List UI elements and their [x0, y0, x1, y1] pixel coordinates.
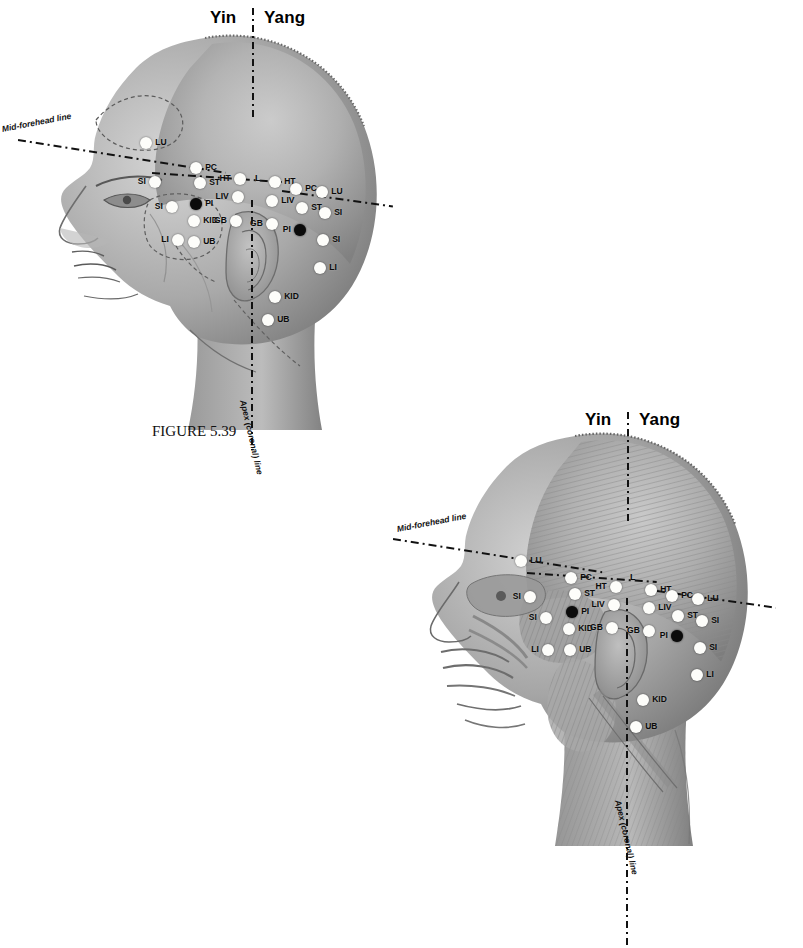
figure-bottom: Yin Yang Mid-forehead line Apex (coronal…: [375, 400, 803, 948]
center-marker-label-bottom: L: [630, 572, 636, 582]
yang-label-2: Yang: [639, 410, 680, 430]
acupoint-label-si-yin: SI: [155, 201, 163, 211]
acupoint-label-pi-yang: PI: [283, 224, 291, 234]
acupoint-label-si-yang: SI: [709, 642, 717, 652]
yang-label: Yang: [264, 8, 305, 28]
acupoint-label-liv-yin: LIV: [216, 191, 229, 201]
acupoint-label-si-yang: SI: [332, 234, 340, 244]
acupoint-label-pi-yin: PI: [581, 606, 589, 616]
acupoint-label-pi-yin: PI: [205, 198, 213, 208]
acupoint-label-pc-yin: PC: [205, 162, 217, 172]
acupoint-label-lu-yin: LU: [155, 137, 166, 147]
head-drawing-svg: [0, 0, 420, 450]
acupoint-label-si-yin: SI: [529, 612, 537, 622]
acupoint-label-liv-yin: LIV: [592, 599, 605, 609]
acupoint-label-ub-yang: UB: [277, 314, 289, 324]
figure-caption: FIGURE 5.39: [152, 423, 236, 440]
acupoint-label-gb-yang: GB: [250, 218, 263, 228]
acupoint-label-ub-yin: UB: [203, 236, 215, 246]
acupoint-label-st-yin: ST: [584, 588, 595, 598]
acupoint-label-si-yang: SI: [334, 207, 342, 217]
acupoint-label-si-yang: SI: [711, 615, 719, 625]
acupoint-label-si-yin: SI: [138, 176, 146, 186]
acupoint-label-ub-yang: UB: [645, 721, 657, 731]
acupoint-label-pi-yang: PI: [660, 630, 668, 640]
acupoint-label-ht-yin: HT: [595, 581, 606, 591]
center-marker-label-top: L: [255, 173, 261, 183]
head-illustration-surface: [0, 0, 420, 450]
acupoint-label-gb-yin: GB: [590, 622, 603, 632]
acupoint-label-pc-yin: PC: [580, 572, 592, 582]
acupoint-label-ub-yin: UB: [579, 644, 591, 654]
acupoint-label-lu-yang: LU: [331, 186, 342, 196]
acupoint-label-li-yin: LI: [531, 644, 539, 654]
acupoint-label-gb-yang: GB: [627, 625, 640, 635]
acupoint-label-kid-yang: KID: [284, 291, 299, 301]
acupoint-label-si-yin: SI: [513, 591, 521, 601]
yin-label-2: Yin: [585, 410, 611, 430]
acupoint-label-kid-yang: KID: [652, 694, 667, 704]
figure-top: Yin Yang Mid-forehead line Apex (coronal…: [0, 0, 420, 450]
acupoint-label-li-yang: LI: [706, 669, 714, 679]
acupoint-label-lu-yang: LU: [707, 593, 718, 603]
acupoint-label-lu-yin: LU: [530, 555, 541, 565]
acupoint-label-gb-yin: GB: [214, 215, 227, 225]
acupoint-label-li-yang: LI: [329, 262, 337, 272]
acupoint-label-li-yin: LI: [161, 234, 169, 244]
acupoint-label-liv-yang: LIV: [658, 602, 671, 612]
head-illustration-muscular: [375, 400, 803, 948]
yin-label: Yin: [210, 8, 236, 28]
head-muscle-drawing-svg: [375, 400, 803, 948]
acupoint-label-liv-yang: LIV: [281, 195, 294, 205]
acupoint-label-st-yin: ST: [209, 177, 220, 187]
apex-coronal-line-top-2: [627, 412, 629, 522]
acupoint-label-ht-yin: HT: [219, 173, 230, 183]
apex-coronal-line-lower-2: [626, 598, 628, 948]
apex-coronal-line-top: [252, 8, 254, 120]
